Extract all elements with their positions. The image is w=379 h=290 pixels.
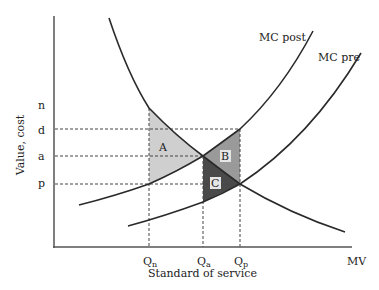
y-tick-n: n	[38, 99, 45, 112]
y-axis-title: Value, cost	[14, 114, 27, 176]
x-axis-title: Standard of service	[148, 267, 257, 280]
region-a-label: A	[158, 141, 168, 154]
region-b-label: B	[221, 150, 229, 163]
mv-curve	[109, 18, 345, 232]
y-tick-d: d	[38, 124, 45, 137]
region-c-label: C	[211, 177, 219, 190]
y-tick-p: p	[38, 177, 45, 190]
region-a	[149, 108, 203, 184]
mc-post-label: MC post	[259, 31, 306, 44]
y-tick-a: a	[38, 150, 45, 163]
mc-post-curve	[79, 31, 313, 205]
mv-label: MV	[347, 255, 367, 268]
mc-pre-label: MC pre	[318, 51, 360, 64]
cost-value-diagram: MC post MC pre n d a p Value, cost Qn Qa…	[0, 0, 379, 290]
